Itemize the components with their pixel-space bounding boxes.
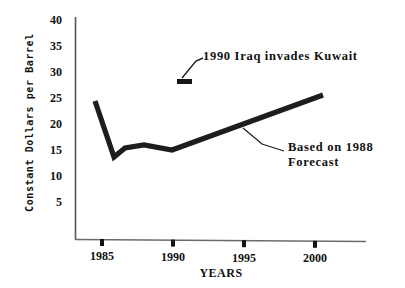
annotation-forecast: Based on 1988 Forecast (288, 140, 374, 170)
x-tick-label-1990: 1990 (151, 250, 195, 265)
y-tick-label-15: 15 (36, 143, 62, 158)
annotation-forecast-line1: Based on 1988 (288, 140, 374, 154)
oil-price-chart-figure: 40 35 30 25 20 15 10 5 1985 1990 1995 20… (0, 0, 405, 288)
y-axis-title: Constant Dollars per Barrel (24, 18, 35, 228)
x-axis-line (75, 240, 366, 242)
kuwait-leader-line (182, 58, 203, 78)
x-tick-1985 (100, 239, 104, 246)
x-tick-1995 (242, 240, 246, 247)
x-axis-title: YEARS (176, 266, 266, 281)
y-tick-label-40: 40 (36, 13, 62, 28)
x-tick-1990 (171, 240, 175, 247)
forecast-leader-line (243, 128, 284, 151)
x-tick-2000 (313, 241, 317, 248)
x-tick-label-2000: 2000 (293, 251, 337, 266)
y-tick-label-30: 30 (36, 65, 62, 80)
annotation-kuwait: 1990 Iraq invades Kuwait (203, 49, 358, 64)
y-tick-label-20: 20 (36, 117, 62, 132)
y-tick-label-10: 10 (36, 169, 62, 184)
y-tick-label-25: 25 (36, 91, 62, 106)
x-tick-label-1995: 1995 (222, 251, 266, 266)
y-tick-label-35: 35 (36, 39, 62, 54)
y-tick-label-5: 5 (36, 195, 62, 210)
kuwait-event-marker (177, 79, 192, 84)
annotation-forecast-line2: Forecast (288, 155, 374, 170)
x-tick-label-1985: 1985 (80, 249, 124, 264)
